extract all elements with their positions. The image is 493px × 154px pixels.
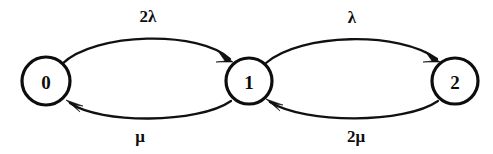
transition-1-to-2-curve xyxy=(266,39,437,63)
diagram-canvas: 0 1 2 2λ μ λ 2μ xyxy=(0,0,493,154)
transition-2-to-1 xyxy=(266,99,438,118)
transition-1-to-0-curve xyxy=(70,101,231,119)
markov-chain-diagram: 0 1 2 2λ μ λ 2μ xyxy=(0,0,493,154)
transition-0-to-1-curve xyxy=(62,39,230,64)
transition-1-to-0 xyxy=(66,100,231,119)
transition-2-to-1-curve xyxy=(270,101,438,118)
state-1-label: 1 xyxy=(244,72,254,93)
state-node-2[interactable]: 2 xyxy=(432,58,478,104)
state-2-label: 2 xyxy=(450,72,460,93)
transition-0-to-1 xyxy=(62,39,233,64)
transition-0-to-1-arrowhead xyxy=(216,51,233,62)
transition-1-to-0-arrowhead xyxy=(66,100,83,112)
transition-2-to-1-arrowhead xyxy=(266,99,283,111)
state-node-0[interactable]: 0 xyxy=(22,57,70,105)
transition-1-to-2 xyxy=(266,39,440,63)
state-0-label: 0 xyxy=(41,72,51,93)
rate-label-lambda: λ xyxy=(348,8,357,27)
rate-label-mu: μ xyxy=(135,127,145,146)
rate-label-2mu: 2μ xyxy=(347,127,366,146)
state-node-1[interactable]: 1 xyxy=(226,58,272,104)
rate-label-2lambda: 2λ xyxy=(140,7,158,26)
